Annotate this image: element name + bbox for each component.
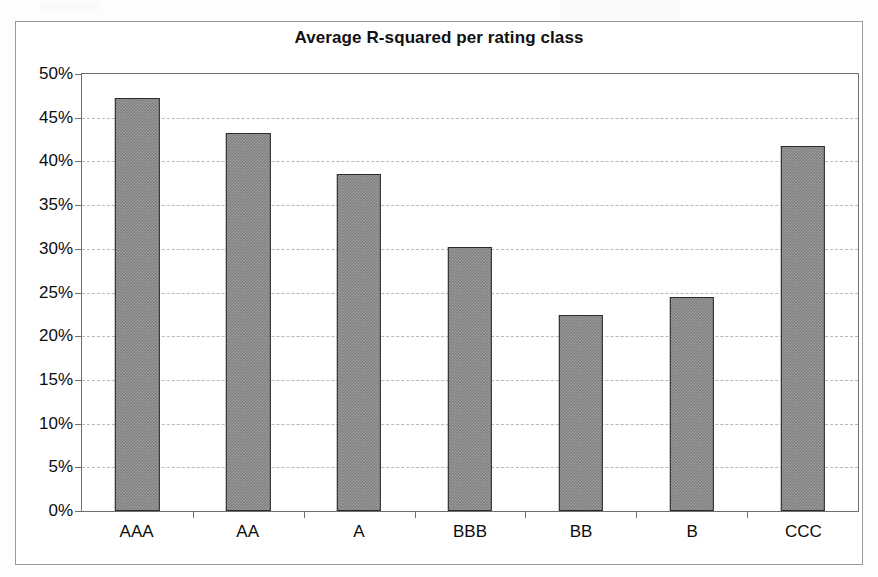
x-axis-category-label: AA <box>192 522 303 542</box>
y-axis-tick-label: 45% <box>39 108 73 128</box>
y-axis-tick-label: 15% <box>39 370 73 390</box>
y-axis-tick <box>75 380 82 381</box>
y-axis-tick <box>75 467 82 468</box>
scan-artifact <box>40 2 100 12</box>
y-axis-tick <box>75 511 82 512</box>
y-axis-tick-label: 50% <box>39 64 73 84</box>
bar <box>780 146 824 511</box>
y-axis-tick <box>75 161 82 162</box>
bar-slot <box>415 74 526 511</box>
bar <box>448 247 492 511</box>
y-axis-tick-label: 30% <box>39 239 73 259</box>
y-axis-tick <box>75 249 82 250</box>
x-axis-tick <box>415 511 416 518</box>
x-axis-category-label: CCC <box>748 522 859 542</box>
x-axis-tick <box>304 511 305 518</box>
scan-artifact <box>560 0 680 18</box>
y-axis-tick <box>75 205 82 206</box>
bar-slot <box>636 74 747 511</box>
x-axis-tick <box>193 511 194 518</box>
x-axis-category-label: BB <box>526 522 637 542</box>
y-axis-tick <box>75 336 82 337</box>
bar-slot <box>193 74 304 511</box>
y-axis-tick-label: 40% <box>39 151 73 171</box>
figure-frame: Average R-squared per rating class 50%45… <box>15 21 863 565</box>
x-axis-tick <box>636 511 637 518</box>
plot-area: 50%45%40%35%30%25%20%15%10%5%0% <box>81 73 859 512</box>
bar-series <box>82 74 858 511</box>
y-axis-tick-label: 0% <box>48 501 73 521</box>
x-axis-tick <box>747 511 748 518</box>
bar <box>337 174 381 511</box>
scanned-page-background: Average R-squared per rating class 50%45… <box>0 0 878 577</box>
bar-slot <box>525 74 636 511</box>
y-axis-tick-label: 20% <box>39 326 73 346</box>
chart-title: Average R-squared per rating class <box>16 28 862 48</box>
bar <box>226 133 270 511</box>
x-axis-category-label: BBB <box>414 522 525 542</box>
x-axis-category-label: AAA <box>81 522 192 542</box>
x-axis-labels: AAAAAABBBBBBCCC <box>81 522 859 542</box>
y-axis-tick-label: 25% <box>39 283 73 303</box>
bar <box>670 297 714 511</box>
x-axis-category-label: B <box>637 522 748 542</box>
bar-slot <box>747 74 858 511</box>
bar-slot <box>304 74 415 511</box>
y-axis-tick <box>75 293 82 294</box>
bar-slot <box>82 74 193 511</box>
y-axis-tick <box>75 74 82 75</box>
bar <box>115 98 159 511</box>
y-axis-tick <box>75 118 82 119</box>
x-axis-category-label: A <box>303 522 414 542</box>
y-axis-tick-label: 5% <box>48 457 73 477</box>
y-axis-tick-label: 35% <box>39 195 73 215</box>
x-axis-tick <box>525 511 526 518</box>
y-axis-tick <box>75 424 82 425</box>
bar <box>559 315 603 511</box>
y-axis-tick-label: 10% <box>39 414 73 434</box>
